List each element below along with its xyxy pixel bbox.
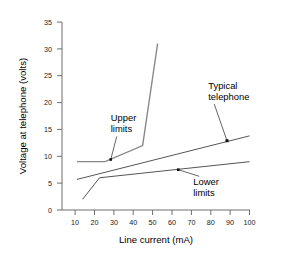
x-tick-label: 90 — [226, 218, 234, 227]
y-tick-label: 35 — [44, 18, 52, 27]
y-tick-label: 15 — [44, 125, 52, 134]
x-tick-label: 30 — [110, 218, 118, 227]
x-tick-labels: 10 20 30 40 50 60 70 80 90 100 — [71, 218, 255, 227]
annotation-label: limits — [193, 187, 215, 198]
x-tick-label: 70 — [187, 218, 195, 227]
x-tick-label: 10 — [71, 218, 79, 227]
data-series-group — [77, 43, 250, 199]
x-tick-label: 60 — [168, 218, 176, 227]
series-upper-limits — [77, 43, 158, 161]
x-tick-label: 40 — [129, 218, 137, 227]
leader-line-upper-limits — [111, 136, 117, 159]
y-tick-label: 30 — [44, 45, 52, 54]
marker-lower-limits — [177, 168, 180, 171]
x-tick-label: 20 — [91, 218, 99, 227]
annotation-lower-limits: Lower limits — [193, 176, 219, 198]
annotation-label: limits — [111, 123, 133, 134]
y-tick-label: 5 — [48, 179, 52, 188]
leader-line-typical-telephone — [214, 104, 227, 141]
series-typical-telephone — [77, 136, 250, 180]
annotation-upper-limits: Upper limits — [111, 112, 137, 134]
y-tick-marks — [57, 22, 62, 210]
annotation-label: Typical — [208, 80, 237, 91]
x-tick-marks — [75, 210, 249, 215]
x-tick-label: 80 — [207, 218, 215, 227]
annotation-typical-telephone: Typical telephone — [208, 80, 249, 102]
chart-svg: 0 5 10 15 20 25 30 35 10 20 30 4 — [0, 0, 298, 267]
chart-figure: 0 5 10 15 20 25 30 35 10 20 30 4 — [0, 0, 298, 267]
y-tick-labels: 0 5 10 15 20 25 30 35 — [44, 18, 52, 215]
y-tick-label: 10 — [44, 152, 52, 161]
marker-typical-telephone — [226, 139, 229, 142]
annotation-label: Lower — [193, 176, 219, 187]
x-axis-title: Line current (mA) — [119, 234, 193, 245]
y-tick-label: 25 — [44, 71, 52, 80]
y-tick-label: 20 — [44, 98, 52, 107]
y-tick-label: 0 — [48, 206, 52, 215]
x-tick-label: 100 — [244, 218, 256, 227]
x-tick-label: 50 — [149, 218, 157, 227]
annotation-label: Upper — [111, 112, 137, 123]
annotation-label: telephone — [208, 91, 249, 102]
series-lower-limits — [83, 162, 250, 200]
y-axis-title: Voltage at telephone (volts) — [17, 58, 28, 174]
marker-upper-limits — [109, 158, 112, 161]
